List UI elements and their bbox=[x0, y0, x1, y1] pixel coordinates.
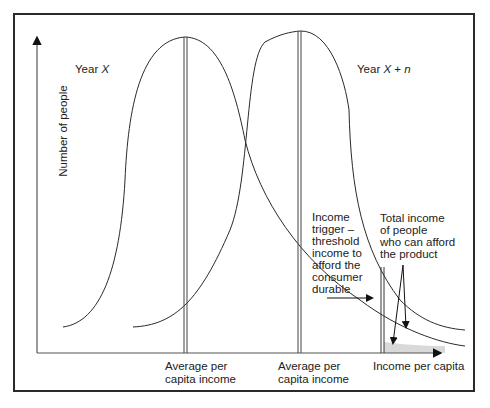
x-axis-label: Income per capita bbox=[373, 360, 464, 373]
annotation-line: income to bbox=[312, 247, 363, 259]
annotation-line: Total income bbox=[380, 212, 455, 224]
curve-label-var-n: n bbox=[404, 63, 410, 75]
curve-label-year-x-plus-n: Year X + n bbox=[357, 63, 411, 76]
annotation-line: afford the bbox=[312, 259, 363, 271]
curve-label-plus: + bbox=[391, 63, 404, 75]
y-axis-label: Number of people bbox=[57, 76, 69, 186]
total-income-annotation: Total income of people who can afford th… bbox=[380, 212, 455, 260]
curve-label-year-x: Year X bbox=[75, 63, 109, 76]
avg-income-label-line1: Average per bbox=[165, 360, 236, 373]
annotation-line: of people bbox=[380, 224, 455, 236]
annotation-line: Income bbox=[312, 211, 363, 223]
curve-label-prefix: Year bbox=[357, 63, 383, 75]
curve-label-year-x-var: X bbox=[101, 63, 109, 75]
avg-income-label-line1: Average per bbox=[278, 360, 349, 373]
annotation-line: threshold bbox=[312, 235, 363, 247]
avg-income-label-year-x: Average per capita income bbox=[165, 360, 236, 386]
curve-label-var-x: X bbox=[383, 63, 391, 75]
annotation-line: durable bbox=[312, 283, 363, 295]
income-trigger-annotation: Income trigger – threshold income to aff… bbox=[312, 211, 363, 295]
total-income-arrow-2 bbox=[403, 265, 406, 327]
total-income-arrow-1 bbox=[393, 265, 403, 343]
avg-income-label-year-x-plus-n: Average per capita income bbox=[278, 360, 349, 386]
annotation-line: who can afford bbox=[380, 236, 455, 248]
annotation-line: the product bbox=[380, 248, 455, 260]
affordable-area-shade bbox=[384, 342, 445, 353]
curve-year-x-plus-n bbox=[133, 31, 465, 330]
curve-label-year-x-prefix: Year bbox=[75, 63, 101, 75]
income-distribution-diagram bbox=[0, 0, 490, 408]
annotation-line: trigger – bbox=[312, 223, 363, 235]
avg-income-label-line2: capita income bbox=[165, 373, 236, 386]
avg-income-label-line2: capita income bbox=[278, 373, 349, 386]
annotation-line: consumer bbox=[312, 271, 363, 283]
